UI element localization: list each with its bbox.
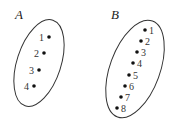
set-a-group: A 1 2 3 4 (4, 7, 74, 113)
point-label: 2 (145, 36, 150, 47)
point-label: 2 (34, 48, 39, 59)
set-a-ellipse (4, 13, 74, 112)
point-label: 5 (133, 70, 138, 81)
set-b-ellipse (94, 13, 176, 124)
point-dot (131, 61, 135, 65)
point-dot (119, 95, 123, 99)
set-b-label: B (111, 7, 119, 22)
point-dot (115, 106, 119, 110)
point-label: 8 (121, 103, 126, 114)
set-b-points: 1 2 3 4 5 6 7 8 (115, 25, 154, 114)
point-label: 1 (39, 32, 44, 43)
point-dot (127, 73, 131, 77)
point-dot (123, 84, 127, 88)
point-label: 3 (141, 47, 146, 58)
point-dot (139, 39, 143, 43)
point-dot (47, 35, 51, 39)
point-label: 7 (125, 92, 130, 103)
point-dot (42, 51, 46, 55)
set-b-group: B 1 2 3 4 5 6 7 8 (94, 7, 176, 124)
point-label: 3 (29, 65, 34, 76)
set-diagram: A 1 2 3 4 B 1 2 3 4 5 6 (0, 0, 176, 124)
point-label: 6 (129, 81, 134, 92)
point-dot (135, 50, 139, 54)
point-label: 1 (149, 25, 154, 36)
set-a-points: 1 2 3 4 (24, 32, 51, 92)
point-label: 4 (137, 58, 142, 69)
point-label: 4 (24, 81, 29, 92)
point-dot (32, 84, 36, 88)
point-dot (37, 68, 41, 72)
point-dot (143, 28, 147, 32)
set-a-label: A (14, 7, 23, 22)
